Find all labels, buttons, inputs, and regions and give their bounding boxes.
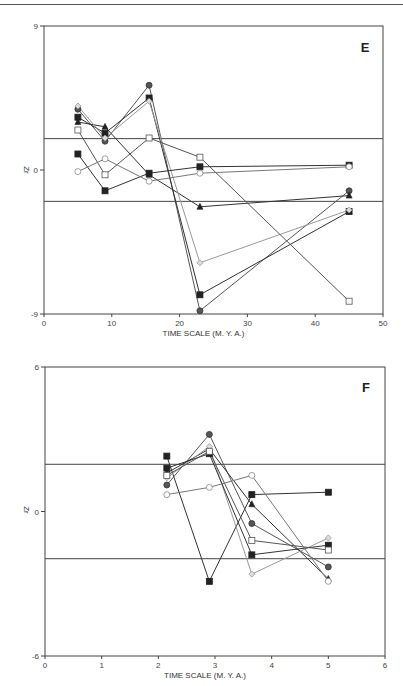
- y-tick-label: 0: [34, 166, 39, 175]
- series-line-open-square: [167, 451, 328, 550]
- data-point-square-filled: [102, 188, 108, 194]
- data-point-square-filled: [325, 489, 331, 495]
- series-line-filled-square-a: [78, 98, 349, 295]
- data-point-square-open: [249, 537, 255, 543]
- data-point-circle-filled: [206, 431, 212, 437]
- x-tick-label: 20: [175, 319, 184, 328]
- x-tick-label: 4: [269, 661, 274, 670]
- data-point-circle-filled: [197, 308, 203, 314]
- series-line-open-square: [78, 130, 349, 301]
- data-point-circle-open: [197, 170, 203, 176]
- chart-panel-e: -90901020304050TIME SCALE (M. Y. A.)ZrE: [0, 0, 403, 345]
- data-point-circle-open: [206, 484, 212, 490]
- data-point-diamond-open: [249, 571, 255, 577]
- x-axis-title: TIME SCALE (M. Y. A.): [163, 329, 245, 338]
- x-tick-label: 0: [42, 319, 47, 328]
- x-axis-title: TIME SCALE (M. Y. A.): [164, 671, 246, 680]
- x-tick-label: 2: [156, 661, 161, 670]
- panel-label: E: [361, 40, 370, 55]
- data-point-square-open: [75, 127, 81, 133]
- data-point-circle-open: [346, 164, 352, 170]
- data-point-square-open: [346, 298, 352, 304]
- data-point-square-filled: [249, 492, 255, 498]
- data-point-diamond-open: [197, 260, 203, 266]
- y-tick-label: -9: [31, 310, 39, 319]
- data-point-square-filled: [75, 151, 81, 157]
- data-point-square-open: [197, 154, 203, 160]
- y-tick-label: -6: [32, 652, 40, 661]
- data-point-circle-filled: [164, 482, 170, 488]
- data-point-circle-filled: [249, 521, 255, 527]
- y-tick-label: 0: [35, 508, 40, 517]
- data-point-circle-open: [249, 472, 255, 478]
- chart-panel-f: -6060123456TIME SCALE (M. Y. A.)ZrF: [0, 346, 403, 686]
- y-axis-title: Zr: [22, 166, 31, 174]
- data-point-square-filled: [197, 164, 203, 170]
- data-point-circle-open: [75, 169, 81, 175]
- y-tick-label: 6: [35, 363, 40, 372]
- data-point-square-filled: [164, 453, 170, 459]
- x-tick-label: 5: [326, 661, 331, 670]
- data-point-circle-open: [146, 178, 152, 184]
- data-point-circle-open: [325, 578, 331, 584]
- data-point-circle-open: [164, 492, 170, 498]
- data-point-diamond-open: [325, 535, 331, 541]
- series-line-filled-triangle: [78, 122, 349, 207]
- data-point-square-open: [102, 172, 108, 178]
- data-point-square-filled: [164, 465, 170, 471]
- data-point-square-open: [146, 135, 152, 141]
- data-point-square-filled: [146, 170, 152, 176]
- y-axis-title: Zr: [22, 506, 31, 514]
- panel-label: F: [362, 380, 370, 395]
- x-tick-label: 40: [311, 319, 320, 328]
- series-line-open-diamond: [78, 101, 349, 263]
- data-point-square-filled: [249, 552, 255, 558]
- data-point-circle-open: [102, 156, 108, 162]
- data-point-circle-filled: [325, 564, 331, 570]
- x-tick-label: 50: [379, 319, 388, 328]
- data-point-square-open: [164, 472, 170, 478]
- x-tick-label: 1: [99, 661, 104, 670]
- data-point-square-open: [325, 547, 331, 553]
- x-tick-label: 3: [213, 661, 218, 670]
- x-tick-label: 10: [107, 319, 116, 328]
- y-tick-label: 9: [34, 22, 39, 31]
- x-tick-label: 6: [383, 661, 388, 670]
- data-point-square-filled: [197, 292, 203, 298]
- series-line-filled-circle: [78, 85, 349, 311]
- x-tick-label: 30: [243, 319, 252, 328]
- data-point-square-open: [206, 448, 212, 454]
- data-point-square-filled: [206, 578, 212, 584]
- data-point-circle-filled: [146, 82, 152, 88]
- plot-frame: [45, 367, 385, 656]
- x-tick-label: 0: [43, 661, 48, 670]
